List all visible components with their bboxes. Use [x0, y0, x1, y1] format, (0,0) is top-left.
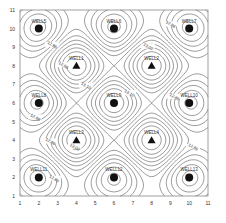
well-well4: WELL4 — [144, 130, 159, 143]
well-label: WELL4 — [144, 130, 159, 135]
y-tick-label: 3 — [12, 156, 15, 162]
x-tick-label: 10 — [186, 200, 192, 206]
well-label: WELL2 — [144, 56, 159, 61]
well-label: WELL11 — [30, 167, 47, 172]
x-tick-label: 4 — [75, 200, 78, 206]
x-tick-label: 8 — [150, 200, 153, 206]
y-tick-label: 10 — [9, 26, 15, 32]
contour-label: 12.86 — [30, 112, 42, 122]
y-tick-label: 8 — [12, 63, 15, 69]
well-well7: WELL7 — [182, 19, 197, 33]
triangle-marker-icon — [72, 62, 80, 69]
circle-marker-icon — [35, 99, 43, 107]
contour-plot: 1234567891011123456789101112.8612.8613.1… — [0, 0, 226, 223]
well-label: WELL5 — [31, 19, 46, 24]
circle-marker-icon — [110, 99, 118, 107]
x-tick-label: 11 — [205, 200, 210, 206]
well-well2: WELL2 — [144, 56, 159, 69]
y-tick-label: 1 — [12, 193, 15, 199]
contour-map-chart: 1234567891011123456789101112.8612.8613.1… — [0, 0, 226, 223]
well-label: WELL12 — [105, 167, 123, 172]
well-label: WELL9 — [107, 93, 122, 98]
circle-marker-icon — [110, 25, 118, 33]
y-tick-label: 2 — [12, 174, 15, 180]
contour-label: 12.86 — [58, 60, 70, 70]
triangle-marker-icon — [148, 62, 156, 69]
well-label: WELL10 — [181, 93, 199, 98]
x-tick-label: 7 — [131, 200, 134, 206]
y-tick-label: 6 — [12, 100, 15, 106]
contour-label: 13.10 — [80, 81, 92, 91]
y-tick-label: 9 — [12, 44, 15, 50]
y-tick-label: 5 — [12, 119, 15, 125]
circle-marker-icon — [110, 173, 118, 181]
x-tick-label: 9 — [169, 200, 172, 206]
circle-marker-icon — [35, 173, 43, 181]
contour-label: 12.86 — [48, 174, 60, 184]
x-tick-label: 2 — [37, 200, 40, 206]
well-well1: WELL1 — [69, 56, 84, 69]
circle-marker-icon — [35, 25, 43, 33]
contour-label: 13.00 — [69, 142, 81, 152]
x-tick-label: 3 — [56, 200, 59, 206]
y-tick-label: 7 — [12, 81, 15, 87]
well-label: WELL13 — [181, 167, 199, 172]
contour-label: 12.86 — [165, 19, 177, 29]
y-tick-label: 11 — [10, 7, 15, 13]
well-well8: WELL8 — [31, 93, 46, 107]
circle-marker-icon — [185, 25, 193, 33]
well-label: WELL6 — [107, 19, 122, 24]
well-well10: WELL10 — [181, 93, 199, 107]
circle-marker-icon — [185, 99, 193, 107]
well-well13: WELL13 — [181, 167, 199, 181]
well-well11: WELL11 — [30, 167, 47, 181]
well-label: WELL7 — [182, 19, 197, 24]
well-label: WELL8 — [31, 93, 46, 98]
triangle-marker-icon — [72, 136, 80, 143]
circle-marker-icon — [185, 173, 193, 181]
well-label: WELL3 — [69, 130, 84, 135]
x-tick-label: 1 — [19, 200, 22, 206]
x-tick-label: 5 — [94, 200, 97, 206]
well-label: WELL1 — [69, 56, 84, 61]
well-well9: WELL9 — [107, 93, 122, 107]
triangle-marker-icon — [148, 136, 156, 143]
x-tick-label: 6 — [113, 200, 116, 206]
y-tick-label: 4 — [12, 137, 15, 143]
